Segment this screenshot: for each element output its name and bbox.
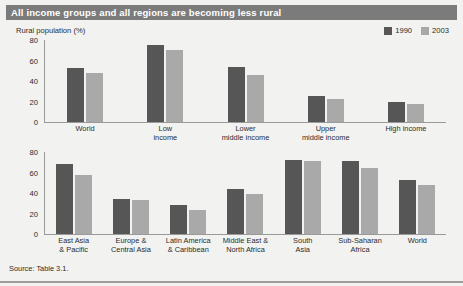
y-tick-40-top: 40	[30, 77, 38, 86]
y-tick-40-bottom: 40	[30, 189, 38, 198]
x-axis-label: Europe &Central Asia	[102, 236, 159, 254]
x-axis-label: World	[45, 124, 125, 142]
bottom-divider	[0, 281, 463, 283]
chart-panel-regions: 020406080 East Asia& PacificEurope &Cent…	[0, 148, 450, 252]
bar-1990	[399, 180, 416, 234]
y-tick-20-top: 20	[30, 97, 38, 106]
y-tick-80-top: 80	[30, 36, 38, 45]
legend-item-2003: 2003	[421, 26, 449, 35]
bar-1990	[228, 67, 245, 122]
x-axis-line-top	[44, 122, 446, 123]
bar-2003	[75, 175, 92, 234]
bar-1990	[388, 102, 405, 123]
bar-2003	[86, 73, 103, 122]
bar-1990	[170, 205, 187, 234]
y-tick-60-top: 60	[30, 56, 38, 65]
x-axis-label: Lowermiddle income	[205, 124, 285, 142]
figure-container: All income groups and all regions are be…	[0, 0, 463, 286]
bar-2003	[361, 168, 378, 234]
bar-group	[389, 152, 446, 234]
bar-2003	[327, 99, 344, 122]
y-axis-ticks-top: 020406080	[18, 36, 38, 122]
y-axis-ticks-bottom: 020406080	[18, 148, 38, 234]
bar-group	[331, 152, 388, 234]
x-axis-label: Uppermiddle income	[286, 124, 366, 142]
figure-title: All income groups and all regions are be…	[6, 7, 281, 18]
bar-group	[125, 40, 205, 122]
figure-title-banner: All income groups and all regions are be…	[6, 5, 457, 20]
bar-group	[274, 152, 331, 234]
bar-group	[102, 152, 159, 234]
x-axis-label: World	[389, 236, 446, 254]
y-tick-80-bottom: 80	[30, 148, 38, 157]
bar-1990	[308, 96, 325, 122]
bar-1990	[227, 189, 244, 234]
bar-2003	[407, 104, 424, 122]
x-axis-labels-bottom: East Asia& PacificEurope &Central AsiaLa…	[45, 236, 446, 254]
source-note: Source: Table 3.1.	[9, 264, 68, 273]
bar-2003	[247, 75, 264, 122]
bar-2003	[304, 161, 321, 234]
x-axis-labels-top: WorldLowincomeLowermiddle incomeUppermid…	[45, 124, 446, 142]
bar-1990	[67, 68, 84, 122]
bar-group	[286, 40, 366, 122]
bar-groups-top	[45, 40, 446, 122]
bar-group	[45, 152, 102, 234]
y-axis-caption: Rural population (%)	[16, 26, 85, 35]
bar-2003	[166, 50, 183, 122]
legend: 1990 2003	[384, 26, 449, 35]
x-axis-label: Sub-SaharanAfrica	[331, 236, 388, 254]
bar-1990	[147, 45, 164, 122]
legend-item-1990: 1990	[384, 26, 412, 35]
y-tick-0-bottom: 0	[34, 230, 38, 239]
bar-group	[45, 40, 125, 122]
x-axis-line-bottom	[44, 234, 446, 235]
bar-group	[217, 152, 274, 234]
legend-swatch-light-icon	[421, 27, 429, 35]
x-axis-label: Lowincome	[125, 124, 205, 142]
bar-group	[366, 40, 446, 122]
x-axis-label: SouthAsia	[274, 236, 331, 254]
bar-2003	[132, 200, 149, 234]
bar-1990	[342, 161, 359, 234]
y-tick-20-bottom: 20	[30, 209, 38, 218]
x-axis-label: Middle East &North Africa	[217, 236, 274, 254]
bar-groups-bottom	[45, 152, 446, 234]
legend-label-2003: 2003	[432, 26, 449, 35]
y-tick-0-top: 0	[34, 118, 38, 127]
bar-2003	[189, 210, 206, 234]
x-axis-label: High income	[366, 124, 446, 142]
chart-panel-income-groups: 020406080 WorldLowincomeLowermiddle inco…	[0, 36, 450, 140]
bar-2003	[418, 185, 435, 234]
legend-swatch-dark-icon	[384, 27, 392, 35]
y-tick-60-bottom: 60	[30, 168, 38, 177]
bar-group	[160, 152, 217, 234]
bar-1990	[285, 160, 302, 234]
legend-label-1990: 1990	[395, 26, 412, 35]
bar-2003	[246, 194, 263, 234]
bar-group	[205, 40, 285, 122]
bar-1990	[113, 199, 130, 234]
x-axis-label: Latin America& Caribbean	[160, 236, 217, 254]
x-axis-label: East Asia& Pacific	[45, 236, 102, 254]
bar-1990	[56, 164, 73, 234]
